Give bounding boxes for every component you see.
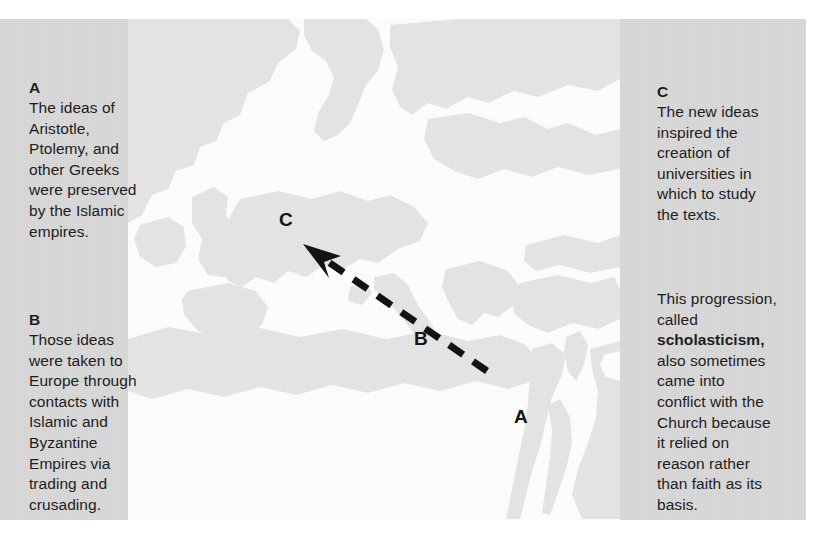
callout-b-body: Those ideas were taken to Europe through… — [29, 330, 137, 515]
callout-block-a: A The ideas of Aristotle, Ptolemy, and o… — [29, 78, 137, 242]
map-label-a: A — [514, 407, 528, 426]
world-map-graphic — [128, 19, 620, 520]
scholasticism-text-pre: This progression, called — [657, 290, 777, 328]
page-panel: C B A A The ideas of Aristotle, Ptolemy,… — [0, 19, 806, 520]
scholasticism-text-post: also sometimes came into conflict with t… — [657, 352, 771, 513]
callout-block-c: C The new ideas inspired the creation of… — [657, 82, 758, 226]
callout-b-label: B — [29, 310, 137, 329]
map-label-b: B — [414, 329, 428, 348]
scholasticism-body: This progression, called scholasticism, … — [657, 289, 777, 516]
callout-c-label: C — [657, 82, 758, 101]
callout-a-body: The ideas of Aristotle, Ptolemy, and oth… — [29, 98, 137, 242]
scholasticism-term: scholasticism, — [657, 331, 765, 348]
map-label-c: C — [279, 210, 293, 229]
scholasticism-paragraph: This progression, called scholasticism, … — [657, 289, 777, 516]
figure-root: C B A A The ideas of Aristotle, Ptolemy,… — [0, 0, 824, 538]
callout-a-label: A — [29, 78, 137, 97]
callout-block-b: B Those ideas were taken to Europe throu… — [29, 310, 137, 515]
callout-c-body: The new ideas inspired the creation of u… — [657, 102, 758, 226]
map-canvas — [128, 19, 620, 520]
